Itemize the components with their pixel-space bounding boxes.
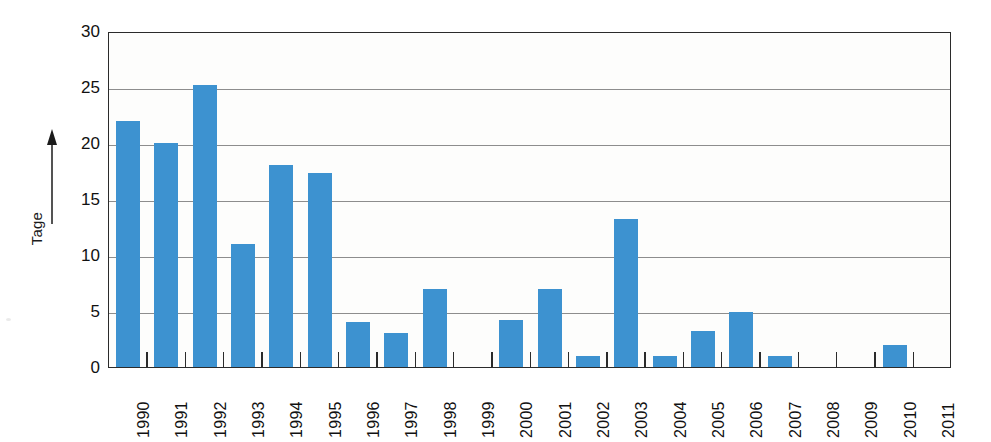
x-axis-tick-label: 1997 — [403, 368, 421, 438]
x-axis-tick — [146, 352, 147, 367]
x-axis-tick-label: 2004 — [672, 368, 690, 438]
x-axis-tick-label: 2010 — [902, 368, 920, 438]
x-axis-tick — [261, 352, 262, 367]
y-axis-tick-label: 20 — [54, 135, 100, 152]
x-axis-tick-label: 1994 — [288, 368, 306, 438]
x-axis-tick — [376, 352, 377, 367]
x-axis-tick — [721, 352, 722, 367]
x-axis-tick — [644, 352, 645, 367]
x-axis-tick-label: 1996 — [365, 368, 383, 438]
bar — [269, 165, 293, 367]
x-axis-tick — [836, 352, 837, 367]
y-axis-tick-label: 15 — [54, 191, 100, 208]
x-axis-tick — [491, 352, 492, 367]
y-axis-tick-label: 5 — [54, 303, 100, 320]
x-axis-tick — [683, 352, 684, 367]
x-axis-tick-label: 1995 — [327, 368, 345, 438]
x-axis-tick-label: 2008 — [825, 368, 843, 438]
x-axis-tick — [874, 352, 875, 367]
x-axis-tick-label: 2009 — [863, 368, 881, 438]
y-axis-tick-label: 25 — [54, 79, 100, 96]
bar — [308, 173, 332, 367]
x-axis-tick — [798, 352, 799, 367]
x-axis-tick-labels: 1990199119921993199419951996199719981999… — [108, 372, 951, 442]
x-axis-tick-label: 1993 — [250, 368, 268, 438]
x-axis-tick — [913, 352, 914, 367]
x-axis-tick-label: 1992 — [212, 368, 230, 438]
x-axis-tick — [530, 352, 531, 367]
y-axis-title: Tage — [28, 189, 45, 269]
y-axis-tick-label: 30 — [54, 23, 100, 40]
y-axis-tick-label: 10 — [54, 247, 100, 264]
scan-artifact — [6, 318, 11, 321]
bars-layer — [109, 33, 950, 367]
x-axis-tick-label: 2002 — [595, 368, 613, 438]
bar — [193, 85, 217, 367]
x-axis-tick — [568, 352, 569, 367]
x-axis-tick — [300, 352, 301, 367]
y-axis-tick-label: 0 — [54, 359, 100, 376]
x-axis-tick-label: 2003 — [633, 368, 651, 438]
x-axis-tick — [606, 352, 607, 367]
x-axis-tick — [338, 352, 339, 367]
x-axis-tick-label: 1999 — [480, 368, 498, 438]
x-axis-tick — [415, 352, 416, 367]
y-axis-tick-labels: 051015202530 — [50, 0, 100, 442]
x-axis-tick-label: 1990 — [135, 368, 153, 438]
bar — [154, 143, 178, 367]
plot-area — [108, 32, 951, 368]
x-axis-tick-label: 2006 — [748, 368, 766, 438]
x-axis-tick — [185, 352, 186, 367]
x-axis-tick-label: 2005 — [710, 368, 728, 438]
x-axis-tick — [223, 352, 224, 367]
x-axis-tick-label: 2011 — [940, 368, 958, 438]
x-axis-tick-label: 2001 — [557, 368, 575, 438]
x-axis-tick-label: 2007 — [787, 368, 805, 438]
bar — [231, 244, 255, 367]
x-axis-tick — [453, 352, 454, 367]
bar — [614, 219, 638, 367]
x-axis-tick-label: 2000 — [518, 368, 536, 438]
x-axis-tick-label: 1991 — [173, 368, 191, 438]
bar — [116, 121, 140, 367]
x-axis-tick — [759, 352, 760, 367]
bar-chart: Tage 051015202530 1990199119921993199419… — [0, 0, 991, 442]
x-axis-tick-label: 1998 — [442, 368, 460, 438]
